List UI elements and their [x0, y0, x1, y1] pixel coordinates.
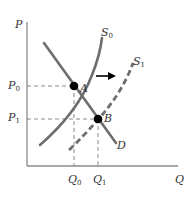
- equilibrium-point-b: [94, 115, 103, 124]
- demand-label: D: [116, 139, 126, 152]
- p0-label: P0: [7, 79, 20, 93]
- point-a-label: A: [79, 82, 88, 95]
- p1-label: P1: [7, 111, 20, 125]
- q0-label: Q0: [68, 173, 82, 187]
- equilibrium-point-a: [70, 82, 79, 91]
- s0-label: S0: [101, 26, 113, 40]
- q1-label: Q1: [93, 173, 107, 187]
- supply-curve-s0: [40, 38, 102, 145]
- y-axis-label: P: [14, 18, 23, 31]
- supply-demand-diagram: P Q P0 P1 Q0 Q1 S0 S1 D A B: [0, 0, 189, 211]
- x-axis-label: Q: [175, 173, 184, 186]
- s1-label: S1: [133, 55, 145, 69]
- shift-arrow-icon: [96, 72, 116, 80]
- point-b-label: B: [103, 112, 112, 125]
- guide-lines: [27, 86, 98, 166]
